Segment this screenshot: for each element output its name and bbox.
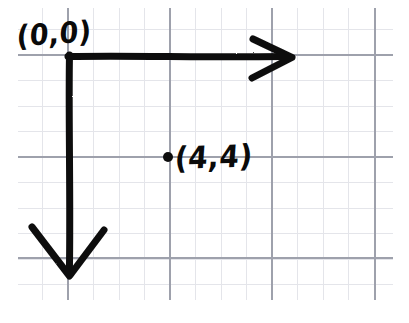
diagram-canvas: (0,0) (4,4) (0, 0, 409, 323)
x-axis-shaft (68, 56, 286, 57)
origin-label: (0,0) (16, 14, 93, 53)
point-label: (4,4) (174, 138, 254, 177)
plotted-point-marker (163, 152, 173, 162)
y-axis-shaft (69, 55, 70, 271)
